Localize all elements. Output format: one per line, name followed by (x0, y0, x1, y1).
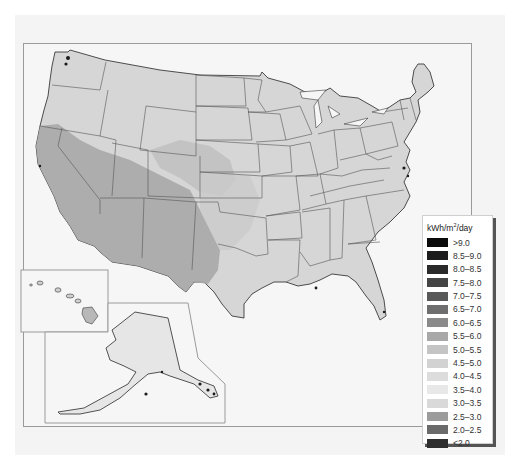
legend-swatch (427, 425, 448, 434)
legend-label: 6.5–7.0 (453, 304, 481, 314)
legend-swatch (427, 359, 448, 368)
legend-item: 4.0–4.5 (427, 370, 492, 383)
legend-label: 3.0–3.5 (453, 398, 481, 408)
legend-item: 7.5–8.0 (427, 276, 492, 289)
legend-swatch (427, 238, 448, 247)
legend-label: 4.5–5.0 (453, 358, 481, 368)
legend-swatch (427, 292, 448, 301)
legend-item: 2.5–3.0 (427, 410, 492, 423)
legend-label: 6.0–6.5 (453, 318, 481, 328)
legend-item: 8.5–9.0 (427, 249, 492, 262)
legend-swatch (427, 399, 448, 408)
legend-label: 4.0–4.5 (453, 371, 481, 381)
legend-swatch (427, 278, 448, 287)
legend-item: 5.0–5.5 (427, 343, 492, 356)
legend-item: 3.5–4.0 (427, 383, 492, 396)
map-legend: kWh/m2/day >9.08.5–9.08.0–8.57.5–8.07.0–… (422, 215, 493, 444)
legend-rows: >9.08.5–9.08.0–8.57.5–8.07.0–7.56.5–7.06… (427, 236, 492, 450)
legend-item: >9.0 (427, 236, 492, 249)
legend-label: 2.0–2.5 (453, 425, 481, 435)
legend-item: 8.0–8.5 (427, 263, 492, 276)
legend-label: 7.5–8.0 (453, 278, 481, 288)
legend-swatch (427, 265, 448, 274)
legend-label: 5.0–5.5 (453, 345, 481, 355)
legend-swatch (427, 372, 448, 381)
legend-label: 8.5–9.0 (453, 251, 481, 261)
legend-item: 3.0–3.5 (427, 397, 492, 410)
legend-swatch (427, 385, 448, 394)
legend-item: 7.0–7.5 (427, 289, 492, 302)
legend-swatch (427, 439, 448, 448)
legend-item: 6.0–6.5 (427, 316, 492, 329)
legend-swatch (427, 332, 448, 341)
legend-label: >9.0 (453, 238, 470, 248)
legend-label: 7.0–7.5 (453, 291, 481, 301)
legend-label: 5.5–6.0 (453, 331, 481, 341)
legend-swatch (427, 412, 448, 421)
legend-swatch (427, 305, 448, 314)
legend-title-per-day: /day (457, 223, 473, 233)
legend-item: <2.0 (427, 437, 492, 450)
legend-title-unit: kWh/m (427, 223, 453, 233)
legend-label: 2.5–3.0 (453, 412, 481, 422)
legend-title: kWh/m2/day (427, 219, 492, 234)
hawaii-inset (21, 270, 108, 332)
legend-label: 8.0–8.5 (453, 264, 481, 274)
legend-swatch (427, 345, 448, 354)
legend-swatch (427, 318, 448, 327)
legend-label: <2.0 (453, 438, 470, 448)
legend-label: 3.5–4.0 (453, 385, 481, 395)
legend-swatch (427, 251, 448, 260)
legend-item: 6.5–7.0 (427, 303, 492, 316)
legend-item: 5.5–6.0 (427, 330, 492, 343)
legend-item: 4.5–5.0 (427, 356, 492, 369)
legend-item: 2.0–2.5 (427, 423, 492, 436)
